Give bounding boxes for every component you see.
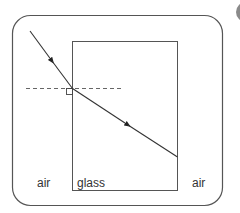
corner-badge-icon — [236, 2, 240, 22]
label-glass: glass — [77, 177, 105, 189]
label-right-air: air — [192, 177, 205, 189]
refracted-ray-arrow-icon — [73, 89, 129, 126]
refraction-diagram: air glass air — [0, 0, 240, 213]
glass-block — [73, 42, 178, 191]
incident-ray — [52, 61, 73, 89]
right-angle-marker — [67, 89, 73, 95]
label-left-air: air — [37, 177, 50, 189]
incident-ray-arrow-icon — [30, 31, 52, 61]
refracted-ray — [128, 125, 178, 157]
